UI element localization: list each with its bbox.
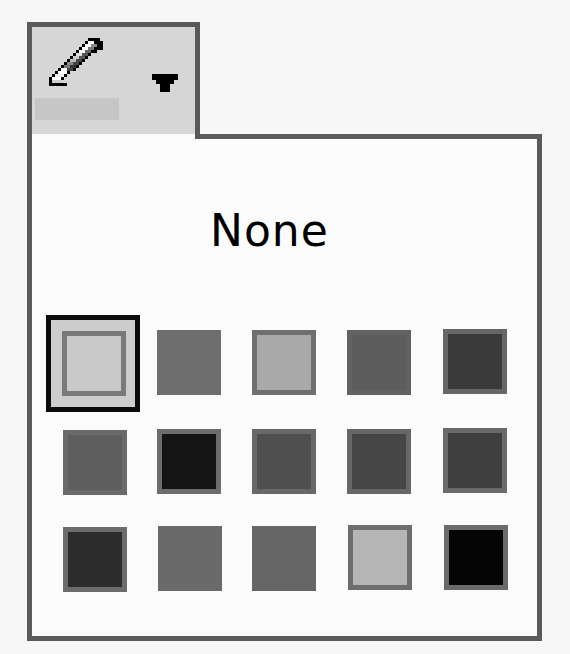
swatch-7[interactable] (157, 429, 221, 494)
swatch-11[interactable] (63, 527, 127, 592)
panel-tab-join (32, 134, 195, 140)
swatch-13[interactable] (252, 526, 316, 591)
swatch-10[interactable] (443, 428, 507, 493)
swatch-9[interactable] (347, 429, 411, 494)
swatch-3[interactable] (252, 330, 316, 395)
swatch-2[interactable] (157, 330, 221, 395)
swatch-none[interactable] (62, 331, 126, 396)
swatch-6[interactable] (63, 430, 127, 495)
swatch-15[interactable] (444, 525, 508, 590)
swatch-12[interactable] (158, 526, 222, 591)
pencil-icon (43, 38, 109, 92)
swatch-14[interactable] (348, 525, 412, 590)
swatch-5[interactable] (443, 329, 507, 394)
swatch-8[interactable] (252, 429, 316, 494)
dropdown-arrow-icon[interactable] (152, 74, 178, 94)
swatch-4[interactable] (347, 330, 411, 395)
current-color-indicator (35, 98, 119, 120)
none-label: None (210, 205, 329, 256)
